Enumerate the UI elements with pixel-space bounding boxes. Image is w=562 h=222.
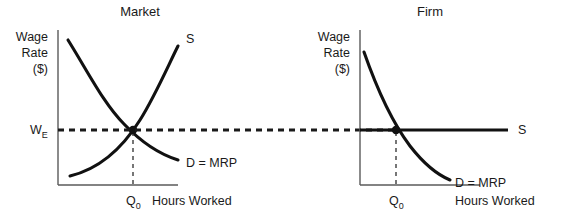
market-supply-curve: [70, 46, 178, 176]
firm-demand-label: D = MRP: [455, 176, 506, 190]
economics-labor-market-figure: Market Wage Rate ($) S D = MRP WE Q0 H: [0, 0, 562, 222]
market-equilibrium-wage-label: WE: [30, 123, 48, 140]
market-supply-label: S: [186, 32, 194, 46]
panel-market: Market Wage Rate ($) S D = MRP WE Q0 H: [16, 4, 237, 211]
firm-ylabel-line2: Rate: [324, 46, 350, 60]
firm-equilibrium-quantity-label: Q0: [389, 194, 404, 211]
market-ylabel-line2: Rate: [22, 46, 48, 60]
firm-supply-label: S: [518, 123, 526, 137]
market-wage-subscript: E: [42, 130, 48, 140]
firm-demand-curve: [364, 52, 450, 180]
firm-equilibrium-point: [392, 126, 400, 134]
market-ylabel-line1: Wage: [16, 30, 48, 44]
market-equilibrium-quantity-label: Q0: [126, 194, 141, 211]
market-panel-title: Market: [120, 4, 160, 19]
panel-firm: Firm Wage Rate ($) S D = MRP Q0 Hours Wo…: [318, 4, 535, 211]
firm-quantity-subscript: 0: [399, 201, 404, 211]
firm-xlabel: Hours Worked: [455, 194, 535, 208]
diagram-canvas: Market Wage Rate ($) S D = MRP WE Q0 H: [0, 0, 562, 222]
market-quantity-subscript: 0: [136, 201, 141, 211]
market-xlabel: Hours Worked: [152, 194, 232, 208]
market-quantity-symbol: Q: [126, 194, 136, 208]
firm-quantity-symbol: Q: [389, 194, 399, 208]
firm-ylabel-line3: ($): [335, 62, 350, 76]
firm-ylabel-line1: Wage: [318, 30, 350, 44]
market-wage-symbol: W: [30, 123, 42, 137]
market-ylabel-line3: ($): [33, 62, 48, 76]
market-demand-label: D = MRP: [186, 156, 237, 170]
firm-panel-title: Firm: [417, 4, 443, 19]
